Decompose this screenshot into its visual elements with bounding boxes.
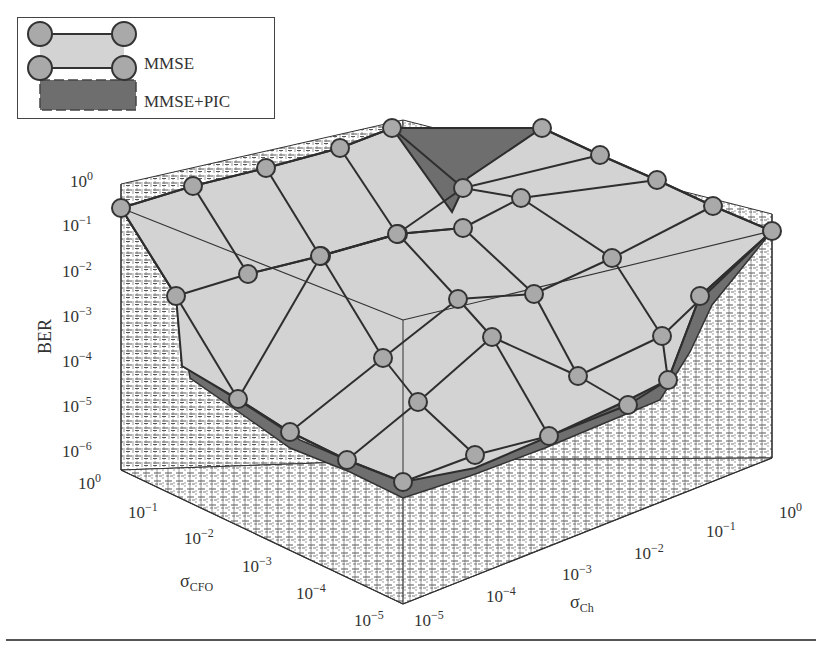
cfo-tick: 10−3	[242, 557, 272, 577]
ch-tick: 10−4	[486, 587, 516, 607]
data-marker	[449, 290, 467, 308]
cfo-tick: 10−4	[296, 584, 326, 604]
data-marker	[331, 139, 349, 157]
data-marker	[454, 179, 472, 197]
data-marker	[466, 446, 484, 464]
data-marker	[691, 287, 709, 305]
cfo-tick: 10−5	[354, 611, 384, 631]
data-marker	[483, 328, 501, 346]
data-marker	[257, 159, 275, 177]
z-tick: 10−6	[62, 442, 92, 462]
data-marker	[239, 265, 257, 283]
data-marker	[281, 423, 299, 441]
data-marker	[591, 146, 609, 164]
data-marker	[619, 396, 637, 414]
data-marker	[540, 427, 558, 445]
ch-tick: 100	[779, 503, 802, 523]
data-marker	[704, 197, 722, 215]
z-tick: 10−2	[62, 262, 92, 282]
cfo-axis-title: σCFO	[180, 571, 213, 592]
data-marker	[659, 371, 677, 389]
data-marker	[388, 225, 406, 243]
data-marker	[569, 367, 587, 385]
z-tick: 10−5	[62, 397, 92, 417]
data-marker	[648, 171, 666, 189]
data-marker	[603, 249, 621, 267]
ch-tick: 10−5	[414, 611, 444, 631]
legend: MMSE MMSE+PIC	[17, 17, 275, 119]
marker-icon	[28, 22, 52, 46]
data-marker	[525, 285, 543, 303]
z-tick: 10−1	[62, 216, 92, 236]
mmse-swatch	[40, 34, 124, 68]
data-marker	[374, 349, 392, 367]
ch-tick: 10−3	[562, 565, 592, 585]
ch-tick: 10−1	[706, 522, 736, 542]
ch-tick: 10−2	[634, 544, 664, 564]
data-marker	[311, 247, 329, 265]
ch-axis-title: σCh	[570, 592, 594, 613]
z-tick: 10−3	[62, 307, 92, 327]
data-marker	[763, 222, 781, 240]
data-marker	[112, 199, 130, 217]
data-marker	[409, 393, 427, 411]
marker-icon	[112, 56, 136, 80]
marker-icon	[28, 56, 52, 80]
data-marker	[184, 177, 202, 195]
bottom-rule	[6, 639, 816, 641]
cfo-tick: 100	[78, 474, 101, 494]
data-marker	[533, 119, 551, 137]
z-tick: 10−4	[62, 352, 92, 372]
data-marker	[229, 390, 247, 408]
marker-icon	[112, 22, 136, 46]
data-marker	[653, 327, 671, 345]
cfo-tick: 10−2	[184, 529, 214, 549]
mmse-pic-swatch	[40, 80, 136, 110]
z-tick: 100	[70, 172, 93, 192]
z-axis-title: BER	[35, 319, 56, 354]
legend-label-mmse-pic: MMSE+PIC	[144, 92, 230, 112]
data-marker	[383, 119, 401, 137]
data-marker	[394, 473, 412, 491]
data-marker	[454, 219, 472, 237]
legend-label-mmse: MMSE	[144, 54, 194, 74]
data-marker	[167, 287, 185, 305]
data-marker	[338, 451, 356, 469]
cfo-tick: 10−1	[128, 503, 158, 523]
data-marker	[512, 189, 530, 207]
